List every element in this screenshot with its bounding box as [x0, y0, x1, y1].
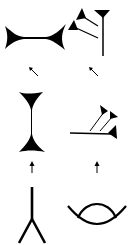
right-up-arrow-icon — [94, 161, 100, 173]
right-top-wedge-cluster-sign — [68, 4, 114, 56]
right-diagonal-arrow-icon — [88, 66, 100, 78]
left-up-arrow-icon — [29, 161, 35, 173]
left-diagonal-arrow-icon — [28, 66, 40, 78]
left-top-horizontal-wedge-sign — [2, 20, 68, 54]
right-middle-horizontal-wedge-cluster-sign — [68, 103, 120, 143]
left-bottom-legs-pictograph — [16, 185, 48, 245]
right-bottom-eye-pictograph — [66, 202, 128, 228]
left-middle-vertical-wedge-sign — [17, 90, 47, 154]
